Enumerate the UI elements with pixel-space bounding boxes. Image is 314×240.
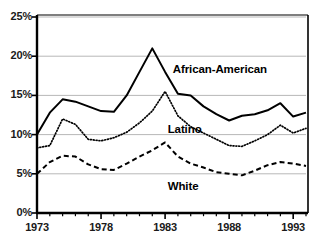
x-axis-tick-label: 1993 <box>271 221 314 233</box>
x-axis-tick-label: 1988 <box>207 221 251 233</box>
gridlines <box>37 17 306 174</box>
y-axis-tick-label: 5% <box>0 167 32 179</box>
series-label-white: White <box>168 180 199 192</box>
series-line-african-american <box>37 48 306 134</box>
chart-plot-area <box>0 0 314 240</box>
x-axis-tick-label: 1973 <box>15 221 59 233</box>
y-axis-tick-label: 15% <box>0 88 32 100</box>
x-axis-tick-label: 1983 <box>143 221 187 233</box>
series-line-latino <box>37 91 306 147</box>
series-line-white <box>37 142 306 175</box>
y-axis-tick-label: 25% <box>0 10 32 22</box>
series-label-african-american: African-American <box>173 63 267 75</box>
y-axis-tick-label: 10% <box>0 128 32 140</box>
y-axis-tick-label: 0% <box>0 206 32 218</box>
x-axis-tick-label: 1978 <box>79 221 123 233</box>
series-label-latino: Latino <box>168 123 202 135</box>
y-axis-tick-label: 20% <box>0 49 32 61</box>
unemployment-rate-line-chart: 25%20%15%10%5%0% 19731978198319881993 Af… <box>0 0 314 240</box>
